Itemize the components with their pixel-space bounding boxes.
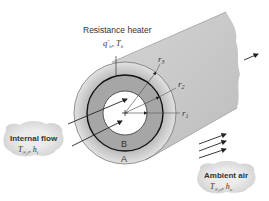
composite-cylinder-diagram: r1 r2 r3 Resistance heater q″h, Th B A I… — [0, 0, 269, 201]
internal-flow-title: Internal flow — [10, 134, 58, 143]
ambient-air-title: Ambient air — [204, 171, 248, 180]
region-b-label: B — [121, 139, 127, 149]
region-a-label: A — [121, 154, 127, 164]
heater-label: Resistance heater — [83, 25, 152, 35]
outflow-arrow — [244, 54, 258, 60]
heater-params: q″h, Th — [103, 38, 124, 49]
ambient-arrow-3 — [199, 149, 226, 158]
